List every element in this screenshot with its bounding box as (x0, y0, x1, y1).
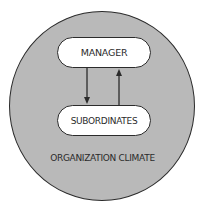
organization-climate-label: ORGANIZATION CLIMATE (0, 153, 205, 163)
subordinates-label: SUBORDINATES (71, 116, 138, 126)
manager-label: MANAGER (81, 47, 128, 58)
subordinates-node: SUBORDINATES (57, 105, 151, 136)
diagram-canvas: MANAGER SUBORDINATES ORGANIZATION CLIMAT… (0, 0, 205, 212)
manager-node: MANAGER (57, 37, 151, 68)
